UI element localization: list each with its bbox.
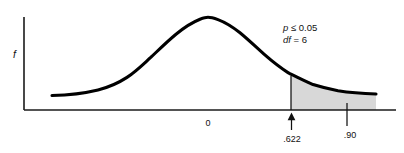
distribution-curve: [52, 17, 376, 95]
annotation-degrees-of-freedom: df = 6: [283, 34, 307, 45]
chart-canvas: f 0 .622 .90 p ≤ 0.05 df = 6: [0, 0, 404, 153]
x-tick-label-observed-value: .90: [344, 130, 357, 140]
distribution-chart: f 0 .622 .90 p ≤ 0.05 df = 6: [0, 0, 404, 153]
critical-value-arrow-icon: [288, 113, 296, 131]
annotation-p-value: p ≤ 0.05: [282, 22, 317, 33]
y-axis-label: f: [13, 48, 17, 60]
annotation-p-rest: ≤ 0.05: [288, 22, 317, 33]
x-tick-label-zero: 0: [205, 118, 210, 128]
annotation-df-rest: = 6: [291, 34, 307, 45]
x-tick-label-critical-value: .622: [283, 134, 301, 144]
